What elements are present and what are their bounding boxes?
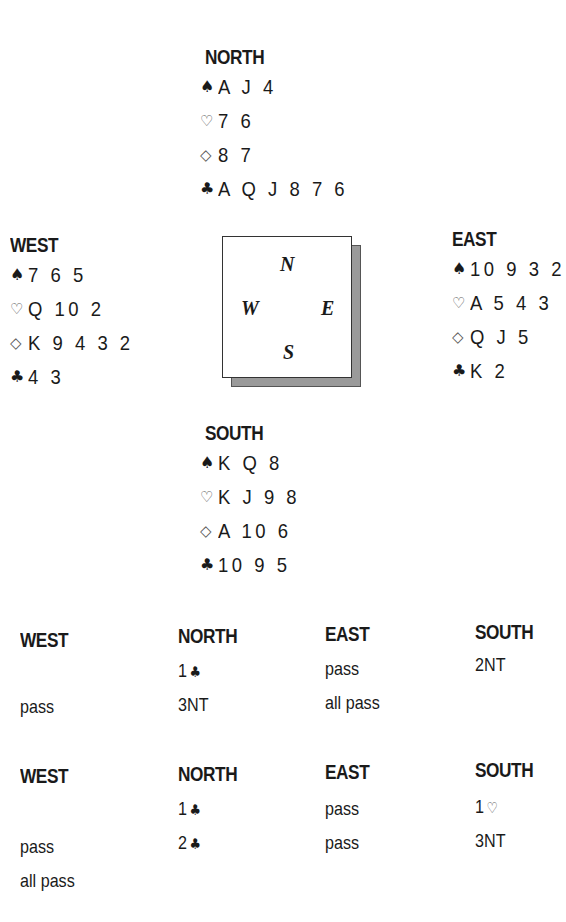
- club-icon: ♣: [452, 354, 470, 388]
- auction-2-bid: pass: [325, 832, 359, 854]
- auction-1-bid: 1♣: [178, 660, 201, 682]
- south-clubs: ♣ 10 9 5: [200, 548, 311, 582]
- auction-1-bid: 2NT: [475, 654, 506, 676]
- auction-2-header-south: SOUTH: [475, 758, 533, 782]
- west-title: WEST: [10, 232, 123, 258]
- auction-2-header-north: NORTH: [178, 762, 237, 786]
- west-clubs: ♣ 4 3: [10, 360, 148, 394]
- south-title: SOUTH: [205, 420, 292, 446]
- north-clubs: ♣ A Q J 8 7 6: [200, 172, 366, 206]
- auction-2-header-east: EAST: [325, 760, 369, 784]
- east-hearts-cards: A 5 4 3: [470, 286, 552, 320]
- west-diamonds-cards: K 9 4 3 2: [28, 326, 134, 360]
- bid-level: 1: [178, 660, 187, 681]
- spade-icon: ♠: [200, 446, 218, 480]
- bid-level: 1: [475, 796, 484, 817]
- north-hand: NORTH ♠ A J 4 ♡ 7 6 ◇ 8 7 ♣ A Q J 8 7 6: [200, 44, 366, 206]
- north-diamonds-cards: 8 7: [218, 138, 254, 172]
- club-icon: ♣: [10, 360, 28, 394]
- east-spades-cards: 10 9 3 2: [470, 252, 565, 286]
- compass-east: E: [321, 297, 334, 320]
- auction-2-bid: 1♡: [475, 796, 498, 818]
- auction-1-bid: pass: [325, 658, 359, 680]
- north-diamonds: ◇ 8 7: [200, 138, 366, 172]
- south-diamonds: ◇ A 10 6: [200, 514, 311, 548]
- compass-north: N: [280, 253, 294, 276]
- east-hearts: ♡ A 5 4 3: [452, 286, 566, 320]
- east-diamonds: ◇ Q J 5: [452, 320, 566, 354]
- east-spades: ♠ 10 9 3 2: [452, 252, 566, 286]
- auction-2-bid: 2♣: [178, 832, 201, 854]
- west-hearts-cards: Q 10 2: [28, 292, 105, 326]
- east-diamonds-cards: Q J 5: [470, 320, 532, 354]
- compass-diagram: N W E S: [222, 236, 362, 388]
- auction-2-bid: pass: [20, 836, 54, 858]
- south-spades-cards: K Q 8: [218, 446, 283, 480]
- east-clubs: ♣ K 2: [452, 354, 566, 388]
- east-clubs-cards: K 2: [470, 354, 508, 388]
- north-spades-cards: A J 4: [218, 70, 277, 104]
- auction-2-bid: 1♣: [178, 798, 201, 820]
- west-hearts: ♡ Q 10 2: [10, 292, 148, 326]
- diamond-icon: ◇: [10, 326, 28, 360]
- west-clubs-cards: 4 3: [28, 360, 64, 394]
- diamond-icon: ◇: [452, 320, 470, 354]
- south-hand: SOUTH ♠ K Q 8 ♡ K J 9 8 ◇ A 10 6 ♣ 10 9 …: [200, 420, 311, 582]
- heart-icon: ♡: [200, 480, 218, 514]
- club-icon: ♣: [200, 172, 218, 206]
- club-icon: ♣: [190, 835, 201, 853]
- west-spades: ♠ 7 6 5: [10, 258, 148, 292]
- auction-1-header-west: WEST: [20, 628, 68, 652]
- east-title: EAST: [452, 226, 555, 252]
- club-icon: ♣: [190, 801, 201, 819]
- auction-2-bid: 3NT: [475, 830, 506, 852]
- west-hand: WEST ♠ 7 6 5 ♡ Q 10 2 ◇ K 9 4 3 2 ♣ 4 3: [10, 232, 148, 394]
- south-hearts: ♡ K J 9 8: [200, 480, 311, 514]
- heart-icon: ♡: [452, 286, 470, 320]
- north-title: NORTH: [205, 44, 337, 70]
- auction-2-bid: pass: [325, 798, 359, 820]
- spade-icon: ♠: [452, 252, 470, 286]
- auction-2-bid: all pass: [20, 870, 75, 892]
- north-hearts: ♡ 7 6: [200, 104, 366, 138]
- auction-1-bid: all pass: [325, 692, 380, 714]
- compass-box: N W E S: [222, 236, 352, 378]
- bid-level: 1: [178, 798, 187, 819]
- auction-1-header-south: SOUTH: [475, 620, 533, 644]
- heart-icon: ♡: [487, 799, 498, 817]
- south-hearts-cards: K J 9 8: [218, 480, 300, 514]
- south-spades: ♠ K Q 8: [200, 446, 311, 480]
- south-diamonds-cards: A 10 6: [218, 514, 292, 548]
- auction-1-bid: 3NT: [178, 694, 209, 716]
- auction-2-header-west: WEST: [20, 764, 68, 788]
- west-diamonds: ◇ K 9 4 3 2: [10, 326, 148, 360]
- auction-1-header-east: EAST: [325, 622, 369, 646]
- bid-level: 2: [178, 832, 187, 853]
- heart-icon: ♡: [10, 292, 28, 326]
- west-spades-cards: 7 6 5: [28, 258, 87, 292]
- club-icon: ♣: [190, 663, 201, 681]
- diamond-icon: ◇: [200, 138, 218, 172]
- spade-icon: ♠: [10, 258, 28, 292]
- spade-icon: ♠: [200, 70, 218, 104]
- auction-1-bid: pass: [20, 696, 54, 718]
- south-clubs-cards: 10 9 5: [218, 548, 291, 582]
- north-hearts-cards: 7 6: [218, 104, 254, 138]
- compass-west: W: [241, 297, 259, 320]
- club-icon: ♣: [200, 548, 218, 582]
- north-clubs-cards: A Q J 8 7 6: [218, 172, 348, 206]
- north-spades: ♠ A J 4: [200, 70, 366, 104]
- diamond-icon: ◇: [200, 514, 218, 548]
- east-hand: EAST ♠ 10 9 3 2 ♡ A 5 4 3 ◇ Q J 5 ♣ K 2: [452, 226, 566, 388]
- compass-south: S: [283, 341, 294, 364]
- heart-icon: ♡: [200, 104, 218, 138]
- auction-1-header-north: NORTH: [178, 624, 237, 648]
